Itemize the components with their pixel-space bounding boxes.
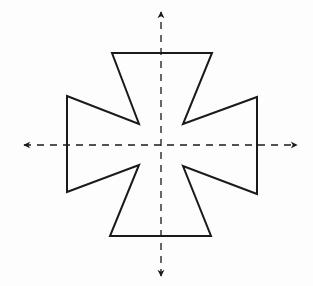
cross-figure-svg [0, 0, 313, 286]
symmetry-diagram [0, 0, 313, 286]
